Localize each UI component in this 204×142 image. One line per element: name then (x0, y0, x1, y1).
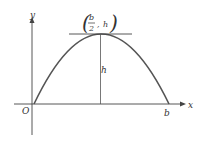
vertex-label: ( b 2 , h ) (82, 11, 118, 35)
vertex-paren-close: ) (109, 11, 118, 35)
origin-label: O (22, 106, 30, 116)
vertex-numerator: b (89, 13, 94, 22)
root-b-label: b (164, 108, 170, 118)
vertex-denominator: 2 (88, 24, 94, 33)
x-axis-label: x (188, 100, 193, 110)
y-axis-label: y (29, 10, 36, 20)
height-label: h (101, 65, 107, 75)
vertex-separator: , (97, 20, 100, 29)
parabola-diagram: y x O b h ( b 2 , h ) (0, 0, 204, 142)
vertex-h: h (103, 20, 108, 29)
x-axis-arrow-icon (180, 102, 186, 107)
